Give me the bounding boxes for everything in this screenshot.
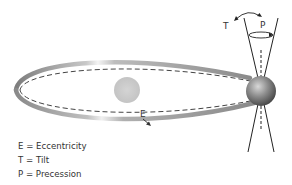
- axis-line-right-bottom: [264, 104, 274, 152]
- axis-line-left-top: [244, 18, 258, 78]
- axis-line-right-top: [264, 18, 278, 78]
- legend-item-eccentricity: E = Eccentricity: [18, 139, 87, 153]
- axis-line-left-bottom: [248, 104, 258, 152]
- tilt-arrowhead-left: [234, 16, 239, 21]
- precession-label: P: [260, 20, 266, 30]
- sun: [114, 77, 140, 103]
- legend-item-tilt: T = Tilt: [18, 153, 87, 167]
- legend: E = Eccentricity T = Tilt P = Precession: [18, 139, 87, 181]
- tilt-label: T: [222, 21, 229, 31]
- earth: [246, 76, 276, 106]
- eccentricity-label: E: [140, 109, 146, 119]
- tilt-arrow: [236, 13, 260, 19]
- legend-item-precession: P = Precession: [18, 167, 87, 181]
